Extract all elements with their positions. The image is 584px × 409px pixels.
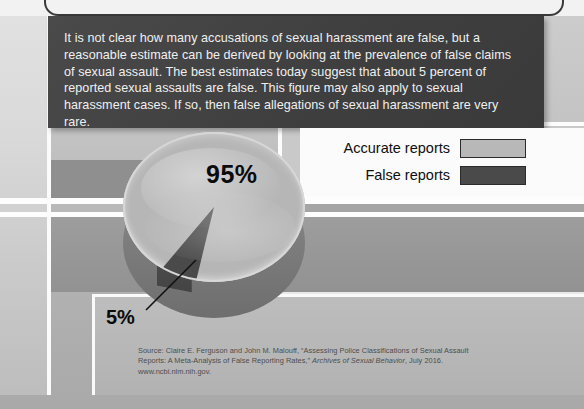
legend: Accurate reports False reports — [326, 136, 526, 190]
legend-swatch-accurate — [460, 139, 526, 158]
source-line-2-prefix: Reports: A Meta-Analysis of False Report… — [138, 356, 312, 365]
rounded-frame-decoration — [44, 0, 564, 16]
legend-item-accurate[interactable]: Accurate reports — [326, 136, 526, 160]
source-url: www.ncbi.nlm.nih.gov. — [138, 367, 558, 377]
pie-label-accurate: 95% — [206, 160, 258, 189]
body-text: It is not clear how many accusations of … — [48, 16, 544, 131]
legend-item-false[interactable]: False reports — [326, 163, 526, 187]
source-line-2: Reports: A Meta-Analysis of False Report… — [138, 356, 558, 366]
legend-label-accurate: Accurate reports — [344, 140, 450, 156]
pie-label-false: 5% — [106, 306, 135, 329]
source-citation: Source: Claire E. Ferguson and John M. M… — [138, 346, 558, 377]
legend-swatch-false — [460, 166, 526, 185]
pie-rim — [123, 132, 305, 282]
slide-canvas: It is not clear how many accusations of … — [0, 0, 584, 409]
body-text-panel: It is not clear how many accusations of … — [48, 16, 544, 128]
source-journal-title: Archives of Sexual Behavior — [312, 356, 405, 365]
legend-label-false: False reports — [365, 167, 450, 183]
source-line-1: Source: Claire E. Ferguson and John M. M… — [138, 346, 558, 356]
source-line-2-suffix: , July 2016. — [405, 356, 443, 365]
